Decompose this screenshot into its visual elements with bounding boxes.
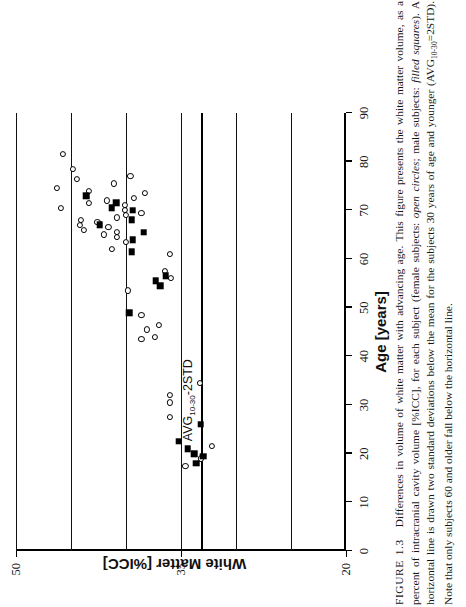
data-point-female — [78, 217, 84, 223]
x-axis-tick-label: 20 — [357, 447, 372, 460]
figure-number: FIGURE 1.3 — [393, 539, 405, 605]
x-axis-tick — [346, 355, 352, 356]
data-point-female — [138, 210, 144, 216]
data-point-male — [126, 309, 133, 316]
data-point-female — [105, 224, 111, 230]
x-axis-title: Age [years] — [372, 113, 389, 551]
x-axis-tick — [346, 258, 352, 259]
caption-part-2: ; male subjects: — [409, 83, 421, 162]
x-axis-tick-label: 80 — [357, 155, 372, 168]
x-axis-tick — [346, 306, 352, 307]
x-axis-tick — [346, 501, 352, 502]
gridline — [236, 113, 237, 551]
data-point-female — [60, 151, 66, 157]
x-axis-tick-label: 10 — [357, 496, 372, 509]
gridline — [181, 113, 182, 551]
data-point-male — [128, 217, 135, 224]
data-point-female — [58, 205, 64, 211]
data-point-female — [111, 180, 117, 186]
data-point-female — [168, 275, 174, 281]
figure-page: 0102030405060708090203550AVG10-30-2STD A… — [0, 0, 466, 607]
threshold-line — [201, 113, 203, 551]
y-axis-tick-label: 20 — [339, 563, 354, 576]
x-axis-tick — [346, 112, 352, 113]
data-point-female — [152, 334, 158, 340]
gridline — [16, 113, 17, 551]
data-point-female — [127, 173, 133, 179]
x-axis-line — [344, 113, 346, 551]
data-point-male — [193, 460, 200, 467]
data-point-male — [96, 222, 103, 229]
caption-emphasis-female: open circles — [409, 162, 421, 219]
data-point-female — [138, 336, 144, 342]
data-point-male — [184, 446, 191, 453]
caption-emphasis-male: filled squares — [409, 20, 421, 83]
data-point-female — [156, 322, 162, 328]
data-point-female — [101, 232, 107, 238]
data-point-female — [125, 288, 131, 294]
data-point-female — [144, 326, 150, 332]
data-point-male — [128, 248, 135, 255]
data-point-male — [200, 453, 207, 460]
data-point-male — [191, 450, 198, 457]
x-axis-tick-label: 60 — [357, 253, 372, 266]
data-point-male — [140, 229, 147, 236]
data-point-male — [113, 200, 120, 207]
y-axis-tick — [346, 551, 347, 557]
data-point-female — [167, 251, 173, 257]
data-point-female — [70, 166, 76, 172]
x-axis-tick-label: 40 — [357, 350, 372, 363]
data-point-female — [123, 239, 129, 245]
data-point-female — [54, 185, 60, 191]
data-point-female — [182, 463, 188, 469]
data-point-female — [131, 195, 137, 201]
x-axis-tick-label: 50 — [357, 301, 372, 314]
gridline — [126, 113, 127, 551]
x-axis-tick-label: 0 — [357, 548, 372, 554]
figure: 0102030405060708090203550AVG10-30-2STD A… — [0, 0, 466, 607]
gridline — [71, 113, 72, 551]
data-point-male — [198, 421, 205, 428]
data-point-female — [109, 246, 115, 252]
x-axis-tick-label: 30 — [357, 399, 372, 412]
x-axis-tick — [346, 209, 352, 210]
data-point-female — [167, 414, 173, 420]
data-point-male — [129, 207, 136, 214]
figure-caption: FIGURE 1.3Differences in volume of white… — [392, 1, 457, 605]
x-axis-tick-label: 70 — [357, 204, 372, 217]
y-axis-title: White Matter [%ICC] — [10, 556, 340, 573]
data-point-female — [167, 392, 173, 398]
data-point-male — [152, 278, 159, 285]
data-point-male — [129, 236, 136, 243]
threshold-line-label: AVG10-30-2STD — [180, 359, 197, 441]
data-point-female — [167, 399, 173, 405]
data-point-female — [142, 190, 148, 196]
data-point-female — [209, 443, 215, 449]
x-axis-tick-label: 90 — [357, 107, 372, 120]
x-axis-tick — [346, 160, 352, 161]
data-point-male — [176, 438, 183, 445]
data-point-female — [81, 227, 87, 233]
data-point-male — [83, 192, 90, 199]
data-point-female — [104, 198, 110, 204]
plot-block: 0102030405060708090203550AVG10-30-2STD A… — [16, 113, 346, 551]
data-point-female — [73, 176, 79, 182]
data-point-male — [162, 273, 169, 280]
data-point-female — [114, 215, 120, 221]
data-point-female — [86, 200, 92, 206]
x-axis-tick — [346, 452, 352, 453]
rotated-figure-wrapper: 0102030405060708090203550AVG10-30-2STD A… — [0, 0, 466, 607]
caption-subscript: 10-30 — [431, 41, 440, 59]
data-point-female — [138, 312, 144, 318]
scatter-plot-area: 0102030405060708090203550AVG10-30-2STD — [16, 113, 346, 551]
x-axis-tick — [346, 404, 352, 405]
gridline — [291, 113, 292, 551]
